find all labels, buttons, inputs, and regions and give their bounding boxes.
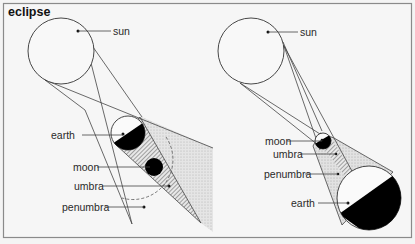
sun	[28, 18, 94, 84]
label-penumbra: penumbra	[62, 201, 109, 213]
eclipse-figure: eclipse sun earth	[0, 0, 415, 244]
label-sun: sun	[300, 26, 317, 38]
label-earth: earth	[291, 197, 315, 209]
label-umbra: umbra	[74, 180, 104, 192]
figure-title: eclipse	[8, 5, 50, 19]
label-sun: sun	[113, 25, 130, 37]
sun	[218, 18, 284, 84]
label-penumbra: penumbra	[264, 168, 311, 180]
label-earth: earth	[51, 129, 75, 141]
label-moon: moon	[265, 135, 291, 147]
label-moon: moon	[73, 161, 99, 173]
label-umbra: umbra	[273, 148, 303, 160]
